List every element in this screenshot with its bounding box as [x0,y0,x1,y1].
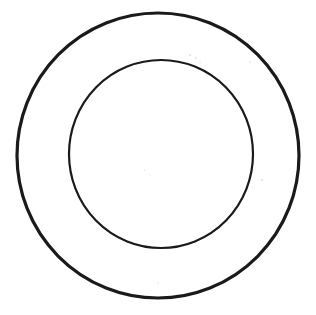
concentric-circles-drawing [0,0,316,315]
scan-speckles [144,54,262,283]
diagram-canvas [0,0,316,315]
outer-circle [17,13,299,298]
inner-circle [69,60,253,248]
